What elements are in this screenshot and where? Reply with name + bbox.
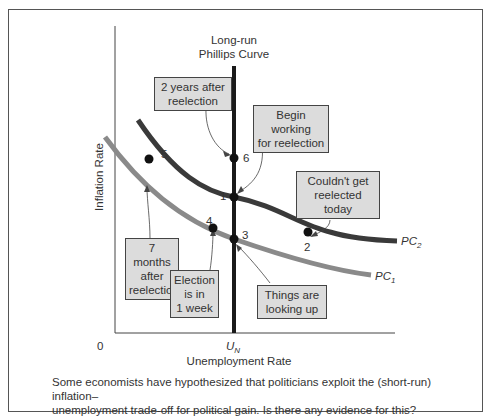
point-3 (230, 235, 239, 244)
callout-text: reelection (129, 283, 175, 297)
callout-text: reelected today (300, 188, 376, 216)
callout-text: reelection (158, 94, 228, 108)
point-1 (230, 193, 239, 202)
callout-election-week: Election is in 1 week (170, 270, 219, 318)
lrpc-label: Long-run Phillips Curve (188, 33, 280, 61)
callout-two-years-after: 2 years after reelection (154, 77, 232, 111)
callout-text: Things are (261, 288, 323, 302)
callout-text: 7 months (129, 241, 175, 269)
lrpc-label-line1: Long-run (188, 33, 280, 47)
point-label-3: 3 (242, 228, 248, 242)
callout-text: Election (174, 273, 215, 287)
point-label-4: 4 (206, 214, 212, 228)
caption-line1: Some economists have hypothesized that p… (52, 375, 472, 403)
caption-line2: unemployment trade-off for political gai… (52, 403, 472, 417)
figure-caption: Some economists have hypothesized that p… (52, 375, 472, 417)
point-6 (230, 154, 239, 163)
callout-text: looking up (261, 302, 323, 316)
callout-text: Begin working (257, 108, 325, 136)
callout-things-looking-up: Things are looking up (257, 285, 327, 319)
y-axis-label: Inflation Rate (92, 127, 106, 227)
callout-text: is in (174, 287, 215, 301)
point-label-5: 5 (161, 147, 167, 161)
callout-couldnt-get-reelected: Couldn't get reelected today (296, 171, 380, 219)
pc2-subscript: 2 (417, 241, 421, 250)
pc2-label: PC2 (401, 234, 421, 253)
point-label-6: 6 (243, 151, 249, 165)
callout-text: for reelection (257, 136, 325, 150)
callout-text: Couldn't get (300, 174, 376, 188)
callout-begin-working: Begin working for reelection (253, 105, 329, 153)
point-2 (304, 228, 313, 237)
pc2-name: PC (401, 235, 417, 247)
point-5 (145, 155, 154, 164)
data-points (145, 154, 313, 244)
callout-text: 1 week (174, 301, 215, 315)
x-axis-label: Unemployment Rate (184, 354, 294, 368)
callout-text: after (129, 269, 175, 283)
lrpc-label-line2: Phillips Curve (188, 47, 280, 61)
point-label-1: 1 (220, 189, 226, 203)
pc1-name: PC (375, 270, 391, 282)
origin-label: 0 (97, 339, 103, 353)
callout-text: 2 years after (158, 80, 228, 94)
pc1-label: PC1 (375, 269, 395, 288)
point-label-2: 2 (304, 240, 310, 254)
pc1-subscript: 1 (391, 276, 395, 285)
